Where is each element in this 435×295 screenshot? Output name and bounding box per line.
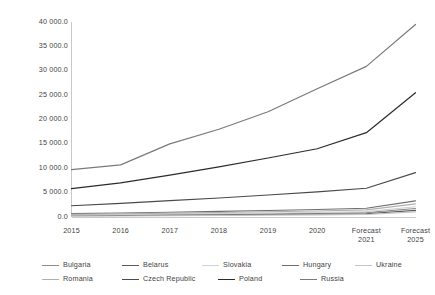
legend-item-ukraine[interactable]: Ukraine — [355, 258, 402, 272]
legend-item-slovakia[interactable]: Slovakia — [202, 258, 251, 272]
legend-label: Slovakia — [223, 261, 251, 269]
legend-label: Ukraine — [376, 261, 402, 269]
legend-item-belarus[interactable]: Belarus — [122, 258, 168, 272]
x-tick-label: Forecast 2025 — [381, 226, 435, 244]
legend-label: Bulgaria — [63, 261, 91, 269]
legend-label: Romania — [63, 275, 93, 283]
legend-item-romania[interactable]: Romania — [42, 272, 93, 286]
legend-swatch-icon — [42, 265, 59, 266]
plot-area: 40 000.035 000.030 000.025 000.020 000.0… — [0, 0, 427, 250]
legend-item-russia[interactable]: Russia — [300, 272, 344, 286]
x-axis-tick-labels: 201520162017201820192020Forecast 2021For… — [0, 0, 427, 250]
legend-label: Czech Republic — [143, 275, 195, 283]
legend-item-czech-republic[interactable]: Czech Republic — [122, 272, 195, 286]
legend-row-2: RomaniaCzech RepublicPolandRussia — [0, 272, 427, 286]
legend-label: Russia — [321, 275, 344, 283]
legend-label: Belarus — [143, 261, 168, 269]
legend-swatch-icon — [202, 265, 219, 266]
legend-item-hungary[interactable]: Hungary — [282, 258, 331, 272]
legend-row-1: BulgariaBelarusSlovakiaHungaryUkraine — [0, 258, 427, 272]
legend-item-bulgaria[interactable]: Bulgaria — [42, 258, 91, 272]
legend-item-poland[interactable]: Poland — [218, 272, 262, 286]
legend-swatch-icon — [355, 265, 372, 266]
legend-swatch-icon — [122, 279, 139, 280]
legend-label: Hungary — [303, 261, 331, 269]
legend-label: Poland — [239, 275, 262, 283]
legend-swatch-icon — [282, 265, 299, 266]
legend-swatch-icon — [122, 265, 139, 266]
legend-swatch-icon — [300, 279, 317, 280]
legend-swatch-icon — [218, 279, 235, 280]
legend-swatch-icon — [42, 279, 59, 280]
chart-legend: BulgariaBelarusSlovakiaHungaryUkraine Ro… — [0, 255, 427, 295]
